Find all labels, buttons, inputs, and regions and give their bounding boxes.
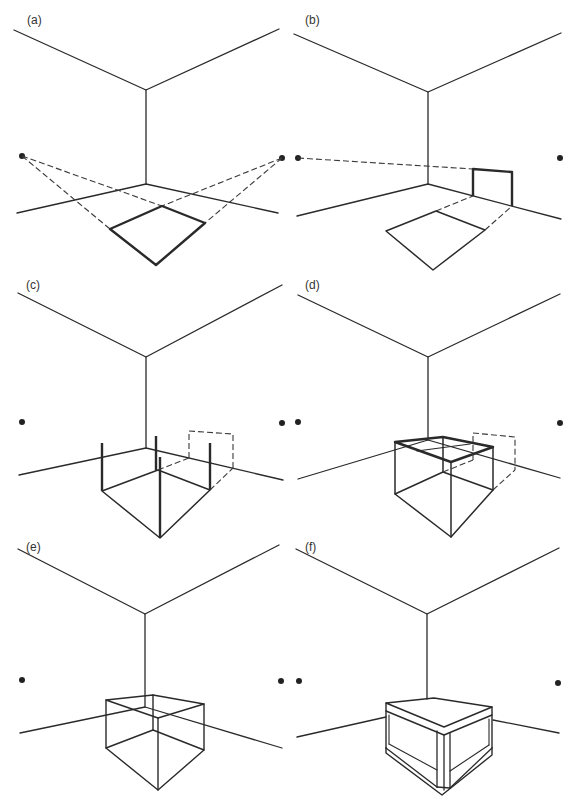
floor-square	[386, 211, 485, 270]
vanishing-point-left	[296, 678, 302, 684]
vanishing-point-left	[19, 419, 25, 425]
top-face	[395, 437, 493, 462]
floor-square	[110, 206, 205, 265]
vanishing-point-right	[555, 680, 561, 686]
panel-b	[294, 33, 563, 270]
vanishing-point-right	[557, 420, 563, 426]
wire-top	[106, 695, 204, 718]
vanishing-point-right	[279, 420, 285, 426]
wire-bottom	[106, 730, 204, 790]
panel-e	[18, 545, 284, 790]
panel-d	[295, 294, 563, 537]
perspective-diagram	[0, 0, 578, 808]
vanishing-point-right	[278, 678, 284, 684]
panel-a	[14, 29, 285, 265]
vanishing-point-right	[557, 155, 563, 161]
vanishing-point-left	[295, 419, 301, 425]
vanishing-point-left	[19, 677, 25, 683]
solid-box	[386, 698, 492, 795]
panel-f	[296, 548, 561, 795]
panel-c	[18, 285, 285, 538]
